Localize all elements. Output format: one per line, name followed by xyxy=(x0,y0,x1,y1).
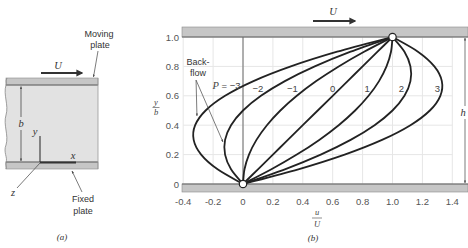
velocity-profile-curve xyxy=(243,37,411,184)
velocity-label: U xyxy=(54,60,63,71)
x-axis-label-numerator: u xyxy=(315,207,319,217)
curve-label: −2 xyxy=(253,83,264,94)
x-axis-label-denominator: U xyxy=(314,219,321,229)
endpoint-circle xyxy=(389,33,396,40)
y-tick-label: 1.0 xyxy=(166,32,179,43)
x-axis-label: x xyxy=(70,150,76,161)
velocity-label: U xyxy=(329,6,338,17)
curve-label: 1 xyxy=(364,83,369,94)
fixed-plate-label-line2: plate xyxy=(73,206,93,216)
curve-labels: P = −3−2−10123 xyxy=(212,80,440,94)
x-tick-label: 0.8 xyxy=(356,196,369,207)
curve-label: P = −3 xyxy=(212,80,241,91)
curve-label: 3 xyxy=(435,83,440,94)
y-tick-label: 0 xyxy=(174,179,179,190)
tick-labels: -0.4-0.200.20.40.60.81.01.21.400.20.40.6… xyxy=(166,32,459,208)
z-axis-label: z xyxy=(10,187,15,198)
y-tick-label: 0.2 xyxy=(166,149,179,160)
y-tick-label: 0.8 xyxy=(166,61,179,72)
fixed-plate-label-line1: Fixed xyxy=(72,194,94,204)
panel-b-caption: (b) xyxy=(308,233,319,243)
x-tick-label: -0.4 xyxy=(175,196,191,207)
top-moving-plate xyxy=(182,27,468,37)
y-axis-label-denominator: b xyxy=(154,107,158,117)
x-tick-label: 1.0 xyxy=(386,196,399,207)
backflow-label-line1: Back- xyxy=(186,57,209,67)
curve-label: −1 xyxy=(287,83,298,94)
moving-plate-label-line2: plate xyxy=(90,40,110,50)
y-tick-label: 0.6 xyxy=(166,90,179,101)
x-tick-label: 0.2 xyxy=(266,196,279,207)
y-axis-label: y xyxy=(32,126,38,137)
x-tick-label: 0 xyxy=(240,196,245,207)
gap-label: h xyxy=(460,107,465,118)
y-axis-label-numerator: y xyxy=(153,97,158,107)
panel-a-schematic: U Moving plate b y x z Fixed plate (a) xyxy=(5,29,113,242)
x-tick-label: 0.4 xyxy=(296,196,309,207)
x-tick-label: -0.2 xyxy=(205,196,221,207)
velocity-profile-curve xyxy=(243,37,393,184)
backflow-arrow xyxy=(196,80,197,116)
figure: U Moving plate b y x z Fixed plate (a) -… xyxy=(0,0,468,248)
curve-label: 0 xyxy=(330,83,335,94)
moving-plate xyxy=(6,78,98,85)
bottom-fixed-plate xyxy=(182,184,468,192)
velocity-profiles xyxy=(193,37,442,184)
velocity-profile-curve xyxy=(224,37,392,184)
moving-plate-leader xyxy=(94,51,99,77)
fixed-plate-leader xyxy=(72,171,82,192)
backflow-label-line2: flow xyxy=(190,68,207,78)
endpoint-circle xyxy=(239,180,246,187)
moving-plate-label-line1: Moving xyxy=(84,29,113,39)
curve-label: 2 xyxy=(399,83,404,94)
panel-a-caption: (a) xyxy=(57,232,68,242)
y-tick-label: 0.4 xyxy=(166,120,179,131)
panel-b-chart: -0.4-0.200.20.40.60.81.01.21.400.20.40.6… xyxy=(153,6,468,243)
x-tick-label: 1.2 xyxy=(416,196,429,207)
x-tick-label: 1.4 xyxy=(446,196,459,207)
x-tick-label: 0.6 xyxy=(326,196,339,207)
gap-label: b xyxy=(18,118,23,129)
